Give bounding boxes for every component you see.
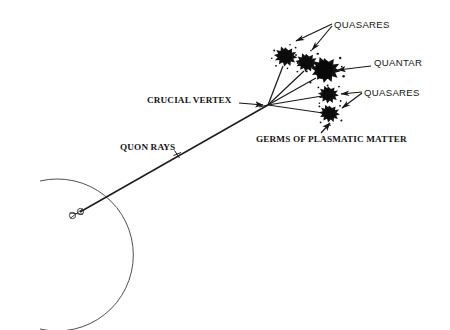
source-body-arc	[40, 179, 133, 330]
leader-germs-of-plasmatic-matter	[321, 123, 330, 133]
blob-quasar-upper-left	[271, 44, 299, 69]
leader-crucial-vertex	[239, 103, 263, 105]
blob-quasar-mid	[318, 86, 342, 104]
diagram-vector-layer	[0, 0, 450, 330]
quon-ray-main-beam	[80, 105, 268, 212]
label-germs-of-plasmatic-matter: GERMS OF PLASMATIC MATTER	[256, 135, 407, 144]
leader-quantar	[338, 66, 371, 70]
leader-quasares-top	[296, 24, 332, 50]
ray-to-quasar-lower	[268, 105, 323, 113]
leader-quasares-right	[341, 92, 362, 108]
ray-to-quasar-upper-left	[268, 66, 283, 105]
label-crucial-vertex: CRUCIAL VERTEX	[147, 96, 232, 105]
diagram-canvas: QUASARES QUANTAR QUASARES CRUCIAL VERTEX…	[0, 0, 450, 330]
label-quon-rays: QUON RAYS	[120, 143, 175, 152]
blob-quasar-lower	[319, 105, 343, 126]
label-quasares-top: QUASARES	[334, 20, 390, 30]
label-quantar: QUANTAR	[374, 58, 422, 68]
origin-marker-icon	[69, 208, 83, 218]
label-quasares-right: QUASARES	[364, 88, 420, 98]
